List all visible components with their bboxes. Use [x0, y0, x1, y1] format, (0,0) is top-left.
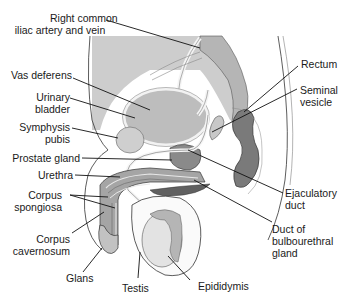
label-line: Corpus	[0, 233, 70, 245]
label-line: cavernosum	[0, 245, 70, 257]
label-line: bladder	[0, 103, 70, 115]
label-epididymis: Epididymis	[198, 280, 249, 292]
label-urethra: Urethra	[0, 169, 73, 181]
label-right-common-iliac: Right common iliac artery and vein	[10, 12, 110, 36]
label-prostate-gland: Prostate gland	[0, 152, 80, 164]
label-urinary-bladder: Urinary bladder	[0, 91, 70, 115]
bulb-of-penis	[150, 184, 210, 196]
label-corpus-spongiosa: Corpus spongiosa	[0, 189, 62, 213]
label-line: gland	[272, 247, 333, 259]
leader-bulbourethral	[194, 180, 272, 222]
label-ejaculatory-duct: Ejaculatory duct	[285, 187, 337, 211]
label-line: bulbourethral	[272, 235, 333, 247]
label-line: iliac artery and vein	[10, 24, 110, 36]
label-line: Duct of	[272, 223, 333, 235]
leader-testis	[138, 252, 140, 278]
label-line: Ejaculatory	[285, 187, 337, 199]
label-line: Seminal	[300, 84, 338, 96]
label-line: Symphysis	[0, 121, 70, 133]
anatomy-diagram: Right common iliac artery and vein Vas d…	[0, 0, 345, 305]
label-glans: Glans	[66, 272, 93, 284]
label-line: Right common	[10, 12, 110, 24]
label-line: duct	[285, 199, 337, 211]
body-contour-back2	[283, 36, 293, 185]
label-line: pubis	[0, 133, 70, 145]
label-line: Corpus	[0, 189, 62, 201]
leader-prostate	[82, 158, 172, 160]
seminal-vesicle	[210, 116, 224, 140]
label-symphysis-pubis: Symphysis pubis	[0, 121, 70, 145]
label-line: Urinary	[0, 91, 70, 103]
label-bulbourethral-duct: Duct of bulbourethral gland	[272, 223, 333, 259]
label-corpus-cavernosum: Corpus cavernosum	[0, 233, 70, 257]
label-line: spongiosa	[0, 201, 62, 213]
label-vas-deferens: Vas deferens	[0, 69, 72, 81]
label-seminal-vesicle: Seminal vesicle	[300, 84, 338, 108]
label-rectum: Rectum	[301, 58, 337, 70]
label-testis: Testis	[122, 282, 149, 294]
label-line: vesicle	[300, 96, 338, 108]
symphysis-pubis	[116, 127, 144, 153]
leader-rectum	[244, 66, 298, 112]
leader-glans	[83, 248, 102, 272]
